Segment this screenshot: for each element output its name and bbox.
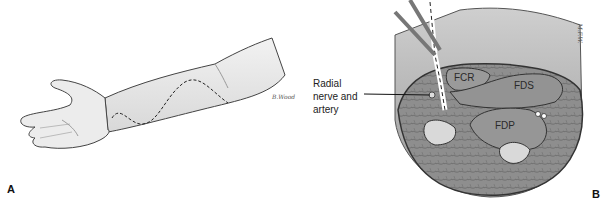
panel-a-forearm: B.Wood A (0, 0, 305, 209)
panel-letter-a: A (7, 183, 15, 195)
panel-letter-b: B (592, 188, 600, 200)
artist-signature-b: M.F.W. (577, 23, 584, 43)
panel-b-cross-section: Radial nerve and artery FCR FDS FDP M.F.… (300, 0, 613, 209)
label-fcr: FCR (454, 72, 475, 83)
callout-line-2: nerve and (313, 90, 357, 103)
forearm-illustration (0, 0, 305, 209)
callout-radial-nerve-artery: Radial nerve and artery (313, 77, 357, 116)
artist-signature-a: B.Wood (272, 93, 295, 100)
label-fdp: FDP (495, 120, 515, 131)
callout-line-3: artery (313, 103, 357, 116)
label-fds: FDS (514, 80, 534, 91)
callout-line-1: Radial (313, 77, 357, 90)
